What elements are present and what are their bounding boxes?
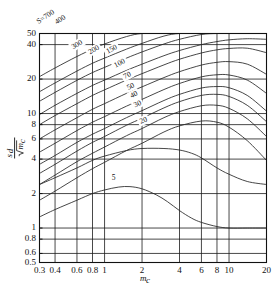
y-axis-tick-label: 8 <box>32 119 37 129</box>
y-axis-tick-label: 0.8 <box>25 233 37 243</box>
x-axis-tick-label: 0.4 <box>49 265 61 275</box>
svg-text:5: 5 <box>112 173 116 182</box>
svg-text:c: c <box>146 275 150 285</box>
y-axis-tick-label: 20 <box>27 73 37 83</box>
y-axis-tick-label: 50 <box>27 28 37 38</box>
x-axis-tick-label: 8 <box>215 265 220 275</box>
svg-text:d: d <box>5 148 15 153</box>
x-axis-tick-label: 0.3 <box>34 265 46 275</box>
x-axis-tick-label: 6 <box>199 265 204 275</box>
y-axis-tick-label: 0.6 <box>25 247 37 257</box>
x-axis-tick-label: 4 <box>177 265 182 275</box>
y-axis-tick-label: 40 <box>27 39 37 49</box>
curve-label-5: 5 <box>110 173 117 182</box>
y-axis-tick-label: 2 <box>32 188 37 198</box>
x-axis-tick-label: 1 <box>102 265 107 275</box>
x-axis-tick-label: 0.8 <box>87 265 99 275</box>
x-axis-tick-label: 20 <box>262 265 272 275</box>
y-axis-tick-label: 1 <box>32 222 37 232</box>
svg-text:c: c <box>17 139 27 143</box>
x-axis-tick-label: 0.6 <box>71 265 83 275</box>
y-axis-tick-label: 4 <box>32 153 37 163</box>
log-log-chart: S=700400300200150100705040302050.50.60.8… <box>0 0 277 299</box>
x-axis-tick-label: 10 <box>225 265 235 275</box>
y-axis-tick-label: 6 <box>32 133 37 143</box>
y-axis-tick-label: 10 <box>27 108 37 118</box>
chart-figure: S=700400300200150100705040302050.50.60.8… <box>0 0 277 299</box>
